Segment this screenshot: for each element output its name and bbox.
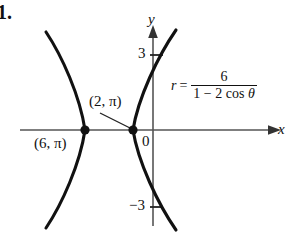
problem-number: 1. — [0, 2, 12, 22]
figure-canvas — [0, 0, 294, 234]
leader-line-vertex-right — [100, 113, 130, 128]
denominator-theta-variable: θ — [248, 86, 255, 101]
point-marker-vertex-right — [128, 125, 137, 134]
equation-equals-sign: = — [179, 79, 187, 93]
point-marker-vertex-left — [80, 125, 89, 134]
equation-fraction: 6 1 − 2 cos θ — [191, 70, 256, 101]
denominator-prefix: 1 − 2 cos — [193, 86, 248, 101]
fraction-denominator: 1 − 2 cos θ — [191, 86, 256, 101]
fraction-numerator: 6 — [217, 70, 232, 85]
origin-label: 0 — [142, 134, 150, 149]
polar-conic-figure: 1. y x 3 −3 0 (2, π) (6, π) r = 6 1 − 2 … — [0, 0, 294, 234]
point-label-vertex-right: (2, π) — [89, 94, 122, 109]
equation-left-hand-side: r — [171, 79, 176, 93]
y-axis-label: y — [148, 12, 155, 27]
point-label-vertex-left: (6, π) — [34, 136, 67, 151]
y-tick-label-negative-3: −3 — [129, 198, 145, 213]
equation-annotation: r = 6 1 − 2 cos θ — [171, 70, 257, 101]
y-tick-label-positive-3: 3 — [138, 46, 146, 61]
x-axis-label: x — [278, 122, 285, 137]
